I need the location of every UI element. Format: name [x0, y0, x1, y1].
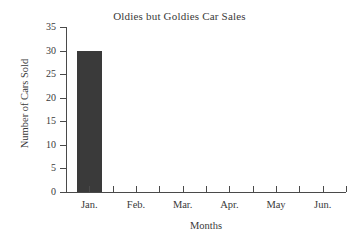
x-axis-tick — [229, 186, 230, 192]
x-axis-tick — [113, 186, 114, 192]
chart-canvas: Oldies but Goldies Car Sales Number of C… — [0, 0, 359, 246]
y-axis-tick — [60, 121, 66, 122]
x-axis-tick — [253, 186, 254, 192]
x-axis-tick-label: Jan. — [66, 199, 112, 210]
x-axis-tick — [276, 186, 277, 192]
x-axis-tick — [136, 186, 137, 192]
x-axis-tick — [299, 186, 300, 192]
bars-layer — [66, 27, 346, 192]
y-axis-tick-label: 5 — [30, 163, 56, 173]
y-axis-tick — [60, 145, 66, 146]
y-axis-tick — [60, 98, 66, 99]
y-axis-title: Number of Cars Sold — [19, 34, 30, 174]
x-axis-tick-label: Mar. — [160, 199, 206, 210]
y-axis-tick-label: 20 — [30, 93, 56, 103]
x-axis-tick — [346, 186, 347, 192]
x-axis-tick — [66, 186, 67, 192]
y-axis-tick — [60, 192, 66, 193]
x-axis-tick — [323, 186, 324, 192]
x-axis-tick-label: Feb. — [113, 199, 159, 210]
x-axis-tick — [206, 186, 207, 192]
x-axis-title: Months — [66, 220, 346, 231]
x-axis-tick-label: Jun. — [300, 199, 346, 210]
y-axis-tick — [60, 74, 66, 75]
x-axis-line — [66, 192, 346, 193]
y-axis-tick-label: 15 — [30, 116, 56, 126]
y-axis-tick-label: 0 — [30, 187, 56, 197]
x-axis-tick — [159, 186, 160, 192]
y-axis-tick-label: 30 — [30, 46, 56, 56]
y-axis-tick-label: 35 — [30, 22, 56, 32]
x-axis-tick-label: May — [253, 199, 299, 210]
y-axis-tick-label: 10 — [30, 140, 56, 150]
y-axis-tick-label: 25 — [30, 69, 56, 79]
bar — [77, 51, 102, 192]
y-axis-tick — [60, 168, 66, 169]
y-axis-tick — [60, 27, 66, 28]
x-axis-tick — [89, 186, 90, 192]
x-axis-tick — [183, 186, 184, 192]
y-axis-tick-labels: 05101520253035 — [30, 0, 56, 246]
y-axis-tick — [60, 51, 66, 52]
x-axis-tick-label: Apr. — [206, 199, 252, 210]
